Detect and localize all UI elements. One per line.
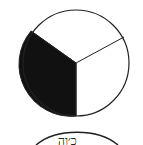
partial-circle: ﬤ׳וﬣ [36, 132, 118, 145]
divider-line [76, 37, 124, 63]
shaded-sector [19, 31, 76, 116]
fraction-circle [19, 10, 129, 116]
fraction-diagram: ﬤ׳וﬣ [0, 0, 143, 145]
partial-circle-text: ﬤ׳וﬣ [58, 134, 77, 145]
